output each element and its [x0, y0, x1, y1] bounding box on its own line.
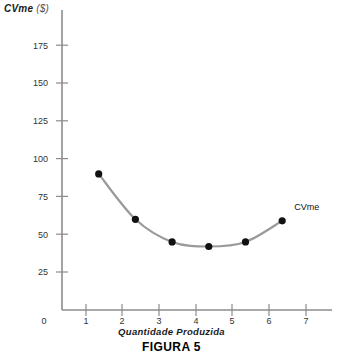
cvme-curve-line	[99, 174, 283, 247]
cvme-data-point-3	[169, 238, 176, 245]
y-tick-label-125: 125	[33, 116, 48, 126]
cvme-curve-label: CVme	[294, 202, 319, 212]
y-tick-label-150: 150	[33, 78, 48, 88]
y-tick-label-25: 25	[38, 267, 48, 277]
cvme-data-points	[95, 170, 286, 250]
cvme-data-point-5	[242, 238, 249, 245]
y-tick-label-75: 75	[38, 192, 48, 202]
y-tick-label-175: 175	[33, 41, 48, 51]
x-tick-label-5: 5	[229, 316, 234, 326]
x-tick-label-7: 7	[303, 316, 308, 326]
x-tick-label-3: 3	[156, 316, 161, 326]
x-tick-label-2: 2	[119, 316, 124, 326]
x-tick-label-4: 4	[193, 316, 198, 326]
x-tick-label-1: 1	[83, 316, 88, 326]
cvme-data-point-4	[205, 243, 212, 250]
x-axis-label: Quantidade Produzida	[0, 326, 343, 337]
cvme-data-point-6	[279, 217, 286, 224]
figure-container: CVme ($) 175 150 125 100 75 50 25	[0, 0, 343, 358]
y-tick-label-50: 50	[38, 230, 48, 240]
chart-svg: 175 150 125 100 75 50 25 0 1 2 3 4 5 6	[0, 0, 343, 358]
y-tick-label-100: 100	[33, 154, 48, 164]
x-tick-label-6: 6	[266, 316, 271, 326]
cvme-data-point-2	[132, 216, 139, 223]
y-axis-tick-labels: 175 150 125 100 75 50 25	[33, 41, 48, 278]
figure-caption: FIGURA 5	[0, 340, 343, 354]
cvme-data-point-1	[95, 170, 102, 177]
x-axis-tick-labels: 0 1 2 3 4 5 6 7	[41, 316, 308, 326]
x-tick-label-0: 0	[41, 316, 46, 326]
